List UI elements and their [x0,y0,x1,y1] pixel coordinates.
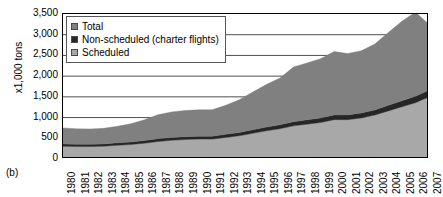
y-axis-tick-labels: 3,5003,0002,5002,0001,5001,0005000 [18,0,58,197]
chart-legend: TotalNon-scheduled (charter flights)Sche… [66,16,226,63]
x-axis-tick: 2001 [352,172,362,194]
y-axis-tick: 0 [18,153,58,163]
x-axis-tick: 2002 [365,172,375,194]
y-axis-tick: 1,000 [18,112,58,122]
y-axis-tick: 500 [18,132,58,142]
x-axis-tick: 1997 [297,172,307,194]
x-axis-tick: 2003 [379,172,389,194]
legend-item: Non-scheduled (charter flights) [71,33,219,46]
x-axis-tick: 1983 [108,172,118,194]
x-axis-tick: 1993 [243,172,253,194]
x-axis-tick: 1986 [148,172,158,194]
x-axis-tick-labels: 1980198119821983198419851986198719881989… [62,160,428,197]
x-axis-tick: 2007 [433,172,443,194]
x-axis-tick: 1995 [270,172,280,194]
x-axis-tick: 1981 [81,172,91,194]
x-axis-tick: 1994 [257,172,267,194]
x-axis-tick: 1987 [162,172,172,194]
y-axis-tick: 3,500 [18,8,58,18]
y-axis-tick: 1,500 [18,91,58,101]
x-axis-tick: 1982 [94,172,104,194]
x-axis-tick: 1989 [189,172,199,194]
x-axis-tick: 2000 [338,172,348,194]
x-axis-tick: 1996 [284,172,294,194]
panel-letter: (b) [6,167,18,178]
x-axis-tick: 1988 [175,172,185,194]
x-axis-tick: 1990 [203,172,213,194]
x-axis-tick: 1985 [135,172,145,194]
x-axis-tick: 2006 [419,172,429,194]
legend-label: Non-scheduled (charter flights) [82,34,219,45]
legend-item: Scheduled [71,46,219,59]
legend-swatch-icon [71,49,78,56]
x-axis-tick: 2005 [406,172,416,194]
legend-swatch-icon [71,36,78,43]
x-axis-tick: 1998 [311,172,321,194]
x-axis-tick: 1980 [67,172,77,194]
x-axis-tick: 1992 [230,172,240,194]
y-axis-tick: 2,000 [18,70,58,80]
legend-label: Scheduled [82,47,129,58]
x-axis-tick: 2004 [392,172,402,194]
x-axis-tick: 1991 [216,172,226,194]
legend-swatch-icon [71,23,78,30]
x-axis-tick: 1999 [325,172,335,194]
y-axis-tick: 2,500 [18,49,58,59]
legend-label: Total [82,21,103,32]
x-axis-tick: 1984 [121,172,131,194]
y-axis-tick: 3,000 [18,29,58,39]
legend-item: Total [71,20,219,33]
